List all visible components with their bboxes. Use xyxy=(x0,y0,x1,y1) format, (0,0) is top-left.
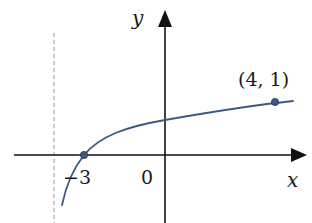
log-curve xyxy=(62,101,293,205)
tick-label-neg3: −3 xyxy=(63,166,91,188)
graph: y x 0 −3 (4, 1) xyxy=(0,0,312,223)
y-axis-label: y xyxy=(131,6,144,30)
origin-label: 0 xyxy=(141,166,153,188)
point-4-1 xyxy=(271,98,278,105)
point-label: (4, 1) xyxy=(238,68,289,90)
x-axis-arrow-icon xyxy=(291,148,307,162)
x-axis-label: x xyxy=(287,168,298,192)
y-axis-arrow-icon xyxy=(158,10,172,27)
point-neg3-0 xyxy=(80,151,87,158)
graph-canvas: y x 0 −3 (4, 1) xyxy=(0,0,312,223)
